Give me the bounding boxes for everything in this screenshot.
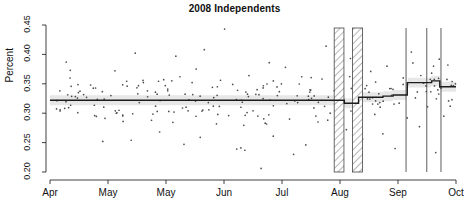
x-tick-label: Oct	[436, 187, 469, 198]
y-tick-label: 0.35	[22, 68, 32, 98]
y-tick-label: 0.45	[22, 9, 32, 39]
chart-container: 2008 Independents Percent 0.200.250.300.…	[0, 0, 469, 206]
y-tick-label: 0.30	[22, 97, 32, 127]
x-tick-label: Jul	[262, 187, 302, 198]
chart-plot-area	[0, 0, 469, 206]
x-tick-label: Apr	[30, 187, 70, 198]
event-vlines	[406, 28, 441, 172]
y-tick-label: 0.25	[22, 127, 32, 157]
x-tick-label: Aug	[320, 187, 360, 198]
y-tick-label: 0.40	[22, 38, 32, 68]
x-tick-label: May	[146, 187, 186, 198]
x-tick-label: Jun	[204, 187, 244, 198]
x-tick-label: Sep	[378, 187, 418, 198]
x-tick-label: May	[88, 187, 128, 198]
y-tick-label: 0.20	[22, 156, 32, 186]
confidence-ribbon	[50, 76, 456, 108]
